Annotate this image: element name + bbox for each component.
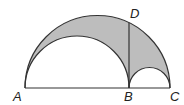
label-d: D (130, 7, 139, 20)
arbelos-diagram (0, 0, 184, 105)
label-a: A (13, 90, 22, 103)
label-b: B (124, 90, 133, 103)
shaded-region (25, 15, 170, 88)
label-c: C (170, 90, 179, 103)
